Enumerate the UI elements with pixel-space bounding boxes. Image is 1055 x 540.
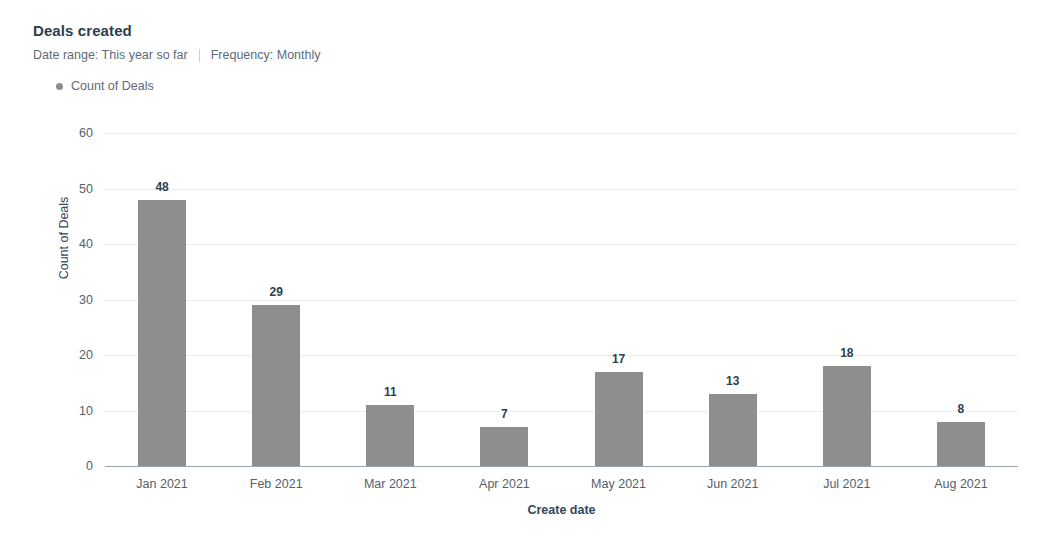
bar-value-label: 17 (612, 352, 625, 366)
x-axis-line (105, 466, 1018, 467)
x-axis-title: Create date (105, 503, 1018, 518)
bar-value-label: 7 (501, 407, 508, 421)
chart-plot: 0102030405060 Count of Deals 48291171713… (0, 0, 1055, 540)
bar[interactable] (252, 305, 300, 466)
x-tick-label: Aug 2021 (904, 477, 1018, 492)
bar[interactable] (595, 372, 643, 466)
bar-series: 48291171713188 (105, 133, 1018, 466)
bar-group[interactable]: 17 (562, 133, 676, 466)
x-tick-label: May 2021 (562, 477, 676, 492)
x-tick-label: Jun 2021 (676, 477, 790, 492)
bar-group[interactable]: 48 (105, 133, 219, 466)
x-tick-label: Jan 2021 (105, 477, 219, 492)
x-tick-label: Mar 2021 (333, 477, 447, 492)
bar-group[interactable]: 7 (447, 133, 561, 466)
bar-value-label: 11 (384, 385, 397, 399)
bar-group[interactable]: 13 (676, 133, 790, 466)
bar-group[interactable]: 18 (790, 133, 904, 466)
bar-value-label: 48 (155, 180, 168, 194)
bar[interactable] (823, 366, 871, 466)
bar[interactable] (138, 200, 186, 466)
bar-value-label: 18 (840, 346, 853, 360)
bar[interactable] (480, 427, 528, 466)
bar-value-label: 8 (958, 402, 965, 416)
x-tick-label: Feb 2021 (219, 477, 333, 492)
bar-group[interactable]: 8 (904, 133, 1018, 466)
bar-value-label: 13 (726, 374, 739, 388)
bar-value-label: 29 (270, 285, 283, 299)
y-tick-label: 60 (33, 126, 93, 140)
y-tick-label: 10 (33, 404, 93, 418)
y-axis-title: Count of Deals (57, 168, 71, 308)
y-tick-label: 20 (33, 348, 93, 362)
x-tick-label: Apr 2021 (447, 477, 561, 492)
y-tick-label: 0 (33, 459, 93, 473)
x-tick-label: Jul 2021 (790, 477, 904, 492)
bar[interactable] (366, 405, 414, 466)
bar-group[interactable]: 29 (219, 133, 333, 466)
bar-group[interactable]: 11 (333, 133, 447, 466)
bar[interactable] (937, 422, 985, 466)
deals-created-report-card: Deals created Date range: This year so f… (0, 0, 1055, 540)
bar[interactable] (709, 394, 757, 466)
